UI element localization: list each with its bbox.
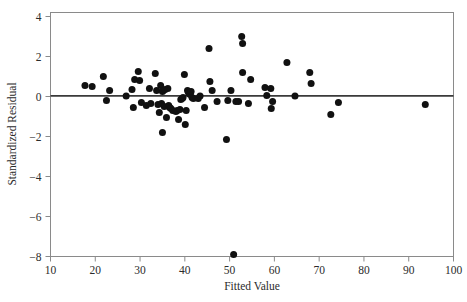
data-point (164, 85, 171, 92)
y-tick-label: −8 (29, 251, 41, 263)
x-tick-label: 70 (313, 264, 325, 276)
data-point (103, 97, 110, 104)
data-point (206, 78, 213, 85)
data-point (223, 136, 230, 143)
data-point (306, 69, 313, 76)
data-point (152, 70, 159, 77)
data-point (235, 98, 242, 105)
data-point (123, 93, 130, 100)
data-point (129, 86, 136, 93)
data-point (227, 87, 234, 94)
data-point (238, 33, 245, 40)
data-point (201, 104, 208, 111)
x-tick-label: 60 (269, 264, 281, 276)
data-point (224, 97, 231, 104)
data-point (181, 71, 188, 78)
data-point (89, 83, 96, 90)
data-point (130, 104, 137, 111)
data-point (156, 109, 163, 116)
data-point (100, 73, 107, 80)
x-tick-label: 100 (445, 264, 463, 276)
x-axis-title: Fitted Value (224, 280, 280, 292)
x-tick-label: 90 (403, 264, 415, 276)
x-tick-label: 40 (179, 264, 191, 276)
data-point (261, 84, 268, 91)
data-point (327, 111, 334, 118)
data-point (247, 76, 254, 83)
data-point (245, 100, 252, 107)
y-tick-label: −6 (29, 211, 41, 223)
data-point (267, 85, 274, 92)
data-point (135, 68, 142, 75)
y-axis-title: Standardized Residual (6, 82, 18, 185)
data-point (335, 99, 342, 106)
y-tick-label: 2 (36, 51, 42, 63)
y-tick-label: 4 (36, 11, 42, 23)
data-point (283, 59, 290, 66)
data-point (197, 93, 204, 100)
data-point (422, 101, 429, 108)
scatter-plot-canvas: 102030405060708090100 420−2−4−6−8 Fitted… (0, 0, 467, 302)
data-point (269, 98, 276, 105)
data-point (183, 107, 190, 114)
data-point (239, 69, 246, 76)
data-point (136, 77, 143, 84)
data-point (81, 82, 88, 89)
data-point (239, 40, 246, 47)
data-point (308, 80, 315, 87)
y-tick-label: 0 (36, 91, 42, 103)
x-tick-label: 10 (45, 264, 57, 276)
data-point (291, 93, 298, 100)
data-point (147, 100, 154, 107)
data-point (175, 116, 182, 123)
x-tick-label: 20 (90, 264, 102, 276)
x-tick-label: 30 (134, 264, 146, 276)
data-point (209, 87, 216, 94)
x-tick-label: 50 (224, 264, 236, 276)
data-point (159, 129, 166, 136)
y-tick-label: −2 (29, 131, 41, 143)
data-point (180, 94, 187, 101)
data-point (163, 114, 170, 121)
residual-plot-figure: 102030405060708090100 420−2−4−6−8 Fitted… (0, 0, 467, 302)
x-tick-label: 80 (358, 264, 370, 276)
data-point (146, 85, 153, 92)
y-tick-label: −4 (29, 171, 41, 183)
data-point (106, 87, 113, 94)
data-point (176, 106, 183, 113)
data-point (263, 92, 270, 99)
data-point (230, 251, 237, 258)
data-point (182, 121, 189, 128)
data-point (188, 88, 195, 95)
data-point (214, 98, 221, 105)
data-point (268, 105, 275, 112)
data-point (206, 45, 213, 52)
